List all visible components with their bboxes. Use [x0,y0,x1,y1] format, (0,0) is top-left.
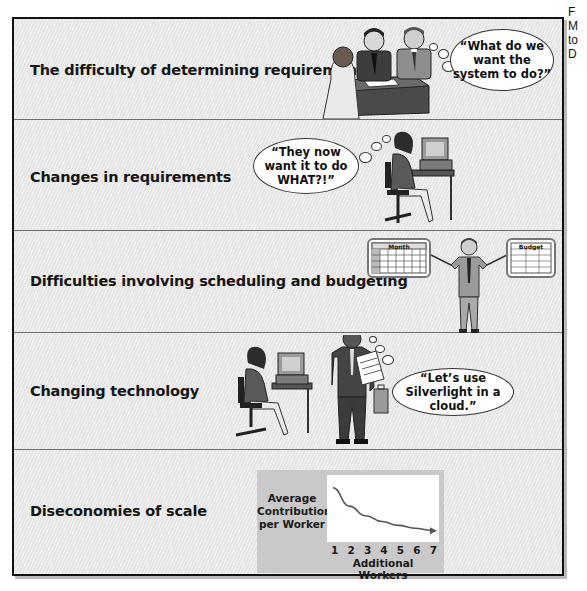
speech-bubble: “Let’s use Silverlight in a cloud.” [392,368,514,416]
man-pointing-illustration [429,235,509,333]
row-label: Diseconomies of scale [30,503,207,519]
chart-plot-area [327,475,439,542]
figure-frame: The difficulty of determining requiremen… [12,17,564,576]
speech-bubble: “They now want it to do WHAT?!” [253,138,359,194]
chart-x-tick: 6 [413,544,420,556]
chart-x-tick: 5 [397,544,404,556]
chart-x-axis-label: Additional Workers [327,557,439,581]
row-label: Difficulties involving scheduling and bu… [30,273,408,289]
row-changing-technology: Changing technology [14,333,562,450]
speech-bubble: “What do we want the system to do?” [450,29,554,91]
row-label: Changes in requirements [30,169,231,185]
chart-x-tick: 2 [347,544,354,556]
chart-x-ticks: 1234567 [327,544,439,556]
row-scheduling-budgeting: Difficulties involving scheduling and bu… [14,231,562,333]
row-label: Changing technology [30,383,199,399]
diminishing-returns-chart: Average Contribution per Worker 1234567 … [257,470,444,573]
thought-dot [429,43,438,51]
thought-dot [375,345,385,353]
budget-title: Budget [506,243,556,250]
chart-y-axis-label: Average Contribution per Worker [257,492,327,531]
calendar-title: Month [367,243,431,250]
row-determining-requirements: The difficulty of determining requiremen… [14,19,562,120]
thought-dot [382,355,394,365]
side-caption-fragment: F M to D [568,5,578,61]
arrowhead-icon [430,527,437,534]
row-changes-in-requirements: Changes in requirements “They now want i… [14,120,562,231]
thought-dot [369,336,377,343]
row-diseconomies-of-scale: Diseconomies of scale Average Contributi… [14,450,562,574]
chart-x-tick: 3 [364,544,371,556]
chart-x-tick: 7 [430,544,437,556]
thought-dot [359,152,372,163]
woman-at-computer-illustration [377,128,457,228]
meeting-illustration [319,21,439,119]
contribution-curve [327,475,439,542]
chart-x-tick: 4 [380,544,387,556]
thought-dot [438,49,449,59]
chart-x-tick: 1 [331,544,338,556]
